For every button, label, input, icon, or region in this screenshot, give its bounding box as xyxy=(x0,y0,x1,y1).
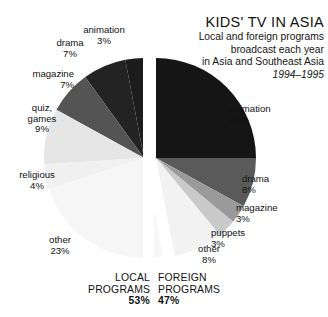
pie-split-gap xyxy=(143,50,154,270)
label-local-other-name: other xyxy=(32,235,88,246)
label-local-animation-name: animation xyxy=(74,25,134,36)
label-foreign-magazine-percent: 3% xyxy=(236,214,302,225)
label-foreign-animation-percent: 25% xyxy=(229,115,299,126)
summary-local-line-1: LOCAL xyxy=(88,272,150,284)
label-foreign-drama-name: drama xyxy=(242,174,302,185)
label-foreign-animation: animation 25% xyxy=(229,104,299,125)
label-local-other: other 23% xyxy=(32,235,88,256)
label-local-drama-name: drama xyxy=(42,38,98,49)
pie-summary: LOCAL PROGRAMS 53% FOREIGN PROGRAMS 47% xyxy=(0,272,328,316)
label-foreign-drama-percent: 8% xyxy=(242,185,302,196)
label-local-magazine: magazine 7% xyxy=(14,69,74,90)
label-local-quiz-games-name-1: quiz, xyxy=(14,103,70,114)
label-local-quiz-games-percent: 9% xyxy=(14,124,70,135)
label-foreign-puppets-name: puppets xyxy=(211,228,267,239)
label-local-magazine-percent: 7% xyxy=(14,80,74,91)
label-foreign-magazine-name: magazine xyxy=(236,203,302,214)
summary-foreign-programs: FOREIGN PROGRAMS 47% xyxy=(158,272,228,307)
summary-foreign-line-1: FOREIGN xyxy=(158,272,228,284)
label-local-quiz-games: quiz, games 9% xyxy=(14,103,70,135)
label-local-drama-percent: 7% xyxy=(42,49,98,60)
label-foreign-other-name: other xyxy=(188,244,230,255)
label-local-drama: drama 7% xyxy=(42,38,98,59)
summary-foreign-percent: 47% xyxy=(158,295,228,307)
summary-local-line-2: PROGRAMS xyxy=(88,284,150,296)
label-foreign-drama: drama 8% xyxy=(242,174,302,195)
label-local-magazine-name: magazine xyxy=(14,69,74,80)
label-local-religious-percent: 4% xyxy=(6,181,68,192)
label-foreign-magazine: magazine 3% xyxy=(236,203,302,224)
label-local-other-percent: 23% xyxy=(32,246,88,257)
label-foreign-animation-name: animation xyxy=(229,104,299,115)
label-local-religious: religious 4% xyxy=(6,170,68,191)
summary-local-percent: 53% xyxy=(88,295,150,307)
label-local-religious-name: religious xyxy=(6,170,68,181)
summary-foreign-line-2: PROGRAMS xyxy=(158,284,228,296)
summary-local-programs: LOCAL PROGRAMS 53% xyxy=(88,272,150,307)
label-foreign-other: other 8% xyxy=(188,244,230,265)
label-foreign-other-percent: 8% xyxy=(188,255,230,266)
chart-canvas: KIDS' TV IN ASIA Local and foreign progr… xyxy=(0,0,328,317)
